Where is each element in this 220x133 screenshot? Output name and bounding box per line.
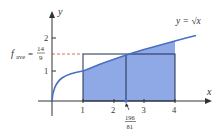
x-axis-arrow-icon <box>205 98 212 104</box>
average-value-diagram: y x 2 1 1 2 3 4 f ave = 14 9 196 81 y = … <box>0 0 220 133</box>
y-axis-arrow-icon <box>49 11 55 18</box>
x-tick-label-2: 2 <box>111 105 115 115</box>
y-axis-label: y <box>57 6 63 17</box>
shaded-area <box>83 41 175 101</box>
x-axis-label: x <box>206 86 212 97</box>
y-tick-label-1: 1 <box>44 66 48 76</box>
favg-denominator: 9 <box>39 54 43 62</box>
x-tick-label-3: 3 <box>142 105 146 115</box>
x-tick-label-4: 4 <box>172 105 177 115</box>
favg-subscript: ave <box>16 53 25 60</box>
y-tick-label-2: 2 <box>44 33 48 43</box>
c-denominator: 81 <box>127 123 134 130</box>
c-pointer-head-icon <box>125 103 129 107</box>
favg-equals: = <box>28 49 33 59</box>
favg-numerator: 14 <box>37 45 45 53</box>
c-numerator: 196 <box>125 114 136 121</box>
x-tick-label-1: 1 <box>81 105 85 115</box>
favg-label: f <box>11 48 15 59</box>
c-point <box>124 99 128 103</box>
curve-label: y = √x <box>175 16 202 26</box>
